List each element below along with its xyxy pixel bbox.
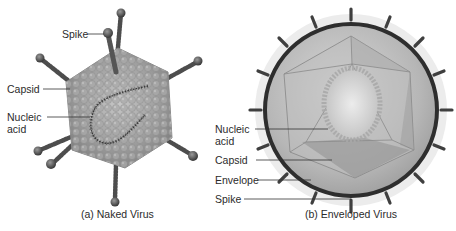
enveloped-nucleic-label-line2: acid — [215, 135, 234, 147]
enveloped-virus — [244, 9, 452, 212]
enveloped-spike-label: Spike — [215, 193, 241, 205]
enveloped-nucleic-label-line1: Nucleic — [215, 123, 249, 135]
naked-capsid-label: Capsid — [7, 83, 40, 95]
naked-virus-caption: (a) Naked Virus — [81, 208, 154, 220]
enveloped-capsid-label: Capsid — [215, 154, 248, 166]
naked-spike-label: Spike — [62, 28, 88, 40]
enveloped-envelope-label: Envelope — [215, 174, 259, 186]
naked-nucleic-label-line1: Nucleic — [7, 111, 41, 123]
naked-virus — [34, 9, 203, 207]
naked-nucleic-label-line2: acid — [7, 123, 26, 135]
enveloped-virus-caption: (b) Enveloped Virus — [305, 208, 397, 220]
virus-diagram: Spike Capsid Nucleic acid (a) Naked Viru… — [0, 0, 456, 231]
